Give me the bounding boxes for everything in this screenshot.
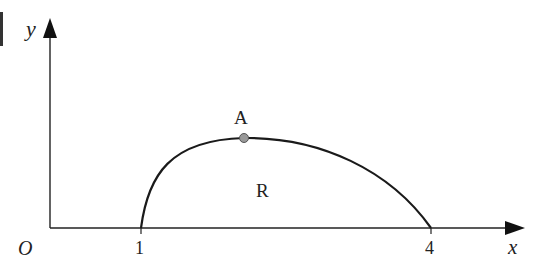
- region-label: R: [256, 180, 269, 201]
- x-axis-label: x: [507, 235, 518, 259]
- x-tick-label-1: 1: [135, 238, 144, 258]
- origin-label: O: [18, 237, 32, 259]
- x-axis-arrow-icon: [505, 221, 525, 235]
- point-a: [240, 134, 249, 143]
- curve: [141, 138, 431, 228]
- y-axis-label: y: [24, 16, 36, 41]
- y-axis-arrow-icon: [43, 18, 57, 38]
- point-a-label: A: [234, 107, 248, 128]
- diagram-canvas: y O 1 4 x A R: [0, 0, 534, 261]
- x-tick-label-4: 4: [425, 238, 434, 258]
